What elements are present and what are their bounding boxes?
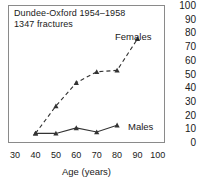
y-tick-label: 100 [179,1,196,11]
y-tick-label: 90 [185,15,196,25]
y-tick-label: 80 [185,28,196,38]
plot-lines-layer [0,0,199,189]
x-tick-label: 50 [51,151,61,160]
data-point-marker [74,80,79,85]
x-tick-label: 30 [10,151,20,160]
series-label-males: Males [128,121,153,132]
y-tick-label: 20 [185,111,196,121]
x-tick-label: 100 [150,151,165,160]
y-tick-label: 70 [185,42,196,52]
y-tick-label: 50 [185,70,196,80]
y-tick-label: 60 [185,56,196,66]
data-point-marker [114,123,119,128]
fracture-incidence-chart: Dundee-Oxford 1954–1958 1347 fractures F… [0,0,199,189]
x-tick-label: 60 [71,151,81,160]
series-label-females: Females [115,31,151,42]
y-tick-label: 30 [185,97,196,107]
y-tick-label: 10 [185,124,196,134]
data-point-marker [74,125,79,130]
y-tick-label: 40 [185,83,196,93]
data-point-marker [94,69,99,74]
x-axis-title: Age (years) [0,166,173,177]
x-tick-label: 70 [92,151,102,160]
x-tick-label: 40 [30,151,40,160]
y-tick-label: 0 [190,138,196,148]
series-line-females [36,39,138,134]
x-tick-label: 80 [112,151,122,160]
x-tick-label: 90 [132,151,142,160]
